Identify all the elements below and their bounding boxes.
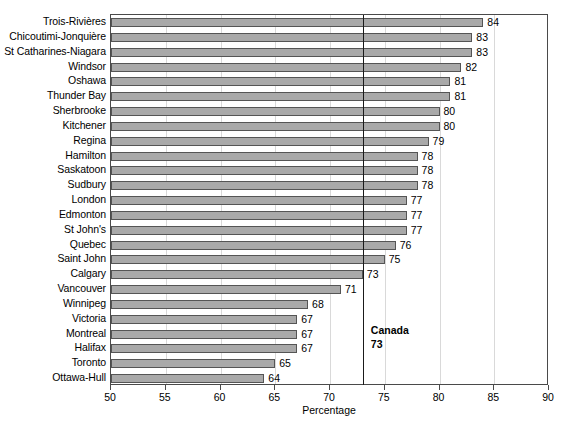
x-axis-tick <box>548 385 549 390</box>
y-axis-label: Kitchener <box>63 118 106 133</box>
bar-value-label: 81 <box>454 74 466 89</box>
bar-value-label: 73 <box>367 267 379 282</box>
bar-value-label: 67 <box>301 341 313 356</box>
bar-value-label: 76 <box>400 238 412 253</box>
bar-row: 67 <box>111 341 547 356</box>
bar-row: 78 <box>111 178 547 193</box>
bar-value-label: 80 <box>444 119 456 134</box>
bar-row: 81 <box>111 89 547 104</box>
bar <box>111 107 440 116</box>
bar-value-label: 71 <box>345 282 357 297</box>
bar-value-label: 68 <box>312 297 324 312</box>
y-axis-label: Regina <box>73 133 106 148</box>
y-axis-label: Sudbury <box>68 177 106 192</box>
x-axis-tick-label: 55 <box>159 391 171 403</box>
y-axis-label: Saint John <box>57 251 106 266</box>
y-axis-label: Thunder Bay <box>47 88 106 103</box>
x-axis-tick <box>165 385 166 390</box>
bar <box>111 33 472 42</box>
bar <box>111 63 461 72</box>
bar <box>111 255 385 264</box>
y-axis-category-labels: Trois-RivièresChicoutimi-JonquièreSt Cat… <box>0 14 106 385</box>
bar <box>111 122 440 131</box>
bar-value-label: 78 <box>422 178 434 193</box>
bar <box>111 241 396 250</box>
bar <box>111 18 483 27</box>
bar <box>111 270 363 279</box>
bar <box>111 152 418 161</box>
x-axis-tick <box>220 385 221 390</box>
canada-reference-line <box>363 15 364 385</box>
bar <box>111 300 308 309</box>
x-axis-tick-label: 50 <box>104 391 116 403</box>
y-axis-label: St John's <box>64 222 106 237</box>
x-axis-tick-label: 80 <box>433 391 445 403</box>
y-axis-label: Hamilton <box>65 148 106 163</box>
x-axis-tick-label: 60 <box>214 391 226 403</box>
bar-value-label: 67 <box>301 327 313 342</box>
bar <box>111 374 264 383</box>
x-axis-tick <box>329 385 330 390</box>
bar <box>111 77 450 86</box>
bar <box>111 359 275 368</box>
bar-value-label: 77 <box>411 208 423 223</box>
bar-value-label: 77 <box>411 193 423 208</box>
plot-area: 8483838281818080797878787777777675737168… <box>110 14 548 385</box>
bar-value-label: 78 <box>422 149 434 164</box>
bar <box>111 285 341 294</box>
bar-value-label: 80 <box>444 104 456 119</box>
bar-value-label: 67 <box>301 312 313 327</box>
x-axis-tick <box>110 385 111 390</box>
bar-row: 79 <box>111 134 547 149</box>
bar <box>111 181 418 190</box>
x-axis-title: Percentage <box>110 404 548 416</box>
x-axis-tick <box>493 385 494 390</box>
y-axis-label: Toronto <box>72 355 106 370</box>
bar-row: 65 <box>111 356 547 371</box>
bar-value-label: 65 <box>279 356 291 371</box>
y-axis-label: St Catharines-Niagara <box>4 44 106 59</box>
x-axis-tick-label: 90 <box>542 391 554 403</box>
y-axis-label: Sherbrooke <box>53 103 106 118</box>
y-axis-label: Vancouver <box>57 281 106 296</box>
bar-row: 84 <box>111 15 547 30</box>
y-axis-label: Oshawa <box>68 73 106 88</box>
bar-row: 71 <box>111 282 547 297</box>
bar-row: 82 <box>111 60 547 75</box>
bar-value-label: 79 <box>433 134 445 149</box>
y-axis-label: London <box>72 192 106 207</box>
y-axis-label: Calgary <box>71 266 106 281</box>
bar-value-label: 83 <box>476 30 488 45</box>
y-axis-label: Victoria <box>72 311 106 326</box>
x-axis-tick <box>384 385 385 390</box>
bar-row: 68 <box>111 297 547 312</box>
y-axis-label: Ottawa-Hull <box>52 370 106 385</box>
bar-row: 77 <box>111 193 547 208</box>
y-axis-label: Winnipeg <box>63 296 106 311</box>
y-axis-label: Montreal <box>66 326 106 341</box>
bar <box>111 344 297 353</box>
x-axis-tick-label: 70 <box>323 391 335 403</box>
y-axis-label: Quebec <box>70 237 106 252</box>
x-axis-tick <box>439 385 440 390</box>
bar-row: 83 <box>111 30 547 45</box>
bar-row: 67 <box>111 312 547 327</box>
bar-value-label: 64 <box>268 371 280 386</box>
bar-row: 80 <box>111 119 547 134</box>
bar-value-label: 78 <box>422 163 434 178</box>
bar-row: 77 <box>111 223 547 238</box>
bar-row: 67 <box>111 327 547 342</box>
bar-value-label: 82 <box>465 60 477 75</box>
x-axis-tick-label: 65 <box>268 391 280 403</box>
bar <box>111 137 429 146</box>
bar-value-label: 83 <box>476 45 488 60</box>
bar-row: 78 <box>111 163 547 178</box>
bar-row: 73 <box>111 267 547 282</box>
x-axis-tick-label: 75 <box>378 391 390 403</box>
bar <box>111 330 297 339</box>
y-axis-label: Saskatoon <box>57 162 106 177</box>
y-axis-label: Edmonton <box>59 207 106 222</box>
x-axis-tick-label: 85 <box>487 391 499 403</box>
y-axis-label: Halifax <box>75 340 106 355</box>
bar-value-label: 84 <box>487 15 499 30</box>
